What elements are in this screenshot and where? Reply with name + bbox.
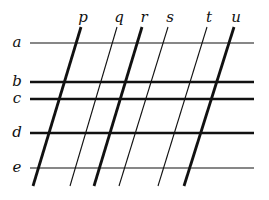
- label-c: c: [13, 89, 22, 107]
- label-e: e: [13, 158, 22, 176]
- label-p: p: [78, 8, 88, 26]
- horizontal-line-c: c: [13, 89, 254, 107]
- label-d: d: [12, 123, 22, 141]
- line-grid-diagram: abcdepqrstu: [0, 0, 269, 200]
- diagram-svg: abcdepqrstu: [0, 0, 269, 200]
- slanted-line-r: r: [94, 8, 148, 186]
- label-s: s: [166, 8, 174, 26]
- label-q: q: [114, 8, 124, 26]
- horizontal-line-e: e: [13, 158, 254, 176]
- horizontal-line-a: a: [13, 33, 254, 51]
- slanted-line-p: p: [33, 8, 88, 186]
- label-u: u: [231, 8, 241, 26]
- label-b: b: [12, 72, 22, 90]
- slanted-line-u: u: [184, 8, 241, 186]
- label-t: t: [206, 8, 213, 26]
- label-r: r: [140, 8, 148, 26]
- slanted-line-t: t: [158, 8, 213, 186]
- label-a: a: [13, 33, 22, 51]
